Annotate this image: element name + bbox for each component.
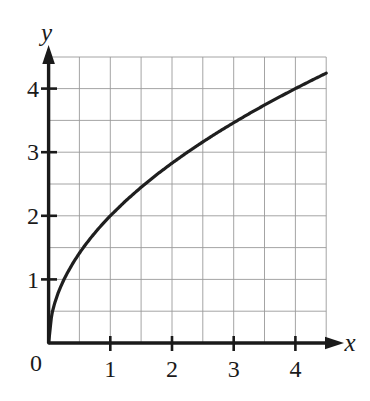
origin-label: 0 bbox=[30, 350, 42, 376]
y-tick-label-2: 2 bbox=[27, 203, 39, 229]
x-tick-label-4: 4 bbox=[289, 356, 301, 382]
coordinate-plane-svg: 1 2 3 4 1 2 3 4 0 x y bbox=[0, 0, 370, 401]
x-tick-label-3: 3 bbox=[228, 356, 240, 382]
x-tick-label-1: 1 bbox=[104, 356, 116, 382]
x-tick-label-2: 2 bbox=[166, 356, 178, 382]
y-tick-label-4: 4 bbox=[27, 76, 39, 102]
y-tick-label-1: 1 bbox=[27, 267, 39, 293]
figure-background bbox=[0, 0, 370, 401]
x-axis-label: x bbox=[343, 329, 355, 356]
y-axis-label: y bbox=[38, 19, 53, 46]
y-tick-label-3: 3 bbox=[27, 139, 39, 165]
graph-figure: 1 2 3 4 1 2 3 4 0 x y bbox=[0, 0, 370, 401]
